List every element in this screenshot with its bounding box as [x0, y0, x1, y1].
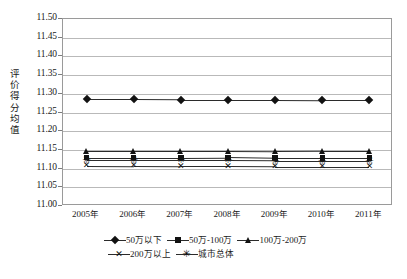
- line-chart: 评价得分均值 11.5011.4511.4011.3511.3011.2511.…: [0, 0, 407, 279]
- asterisk-marker-icon: ✳: [223, 155, 233, 165]
- legend-item[interactable]: ✳城市总体: [176, 247, 234, 261]
- y-axis-tick-label: 11.10: [1, 163, 57, 173]
- legend-marker: [237, 234, 259, 246]
- legend-label: 50万-100万: [189, 233, 232, 247]
- chart-legend: 50万以下50万-100万100万-200万✕200万以上✳城市总体: [104, 233, 370, 261]
- diamond-marker-icon: [111, 236, 119, 244]
- series-line-segment: [134, 160, 181, 161]
- asterisk-marker-icon: ✳: [82, 155, 92, 165]
- y-axis-tick-label: 11.50: [1, 13, 57, 23]
- legend-row: ✕200万以上✳城市总体: [104, 247, 370, 261]
- legend-label: 100万-200万: [259, 233, 307, 247]
- square-marker-icon: [175, 237, 180, 242]
- asterisk-marker-icon: ✳: [176, 155, 186, 165]
- series-line-segment: [322, 161, 369, 162]
- y-axis-tick-label: 11.40: [1, 50, 57, 60]
- asterisk-marker-icon: ✳: [317, 156, 327, 166]
- y-axis-tick-label: 11.30: [1, 88, 57, 98]
- plot-area: ✕✕✕✕✕✕✕✳✳✳✳✳✳✳: [62, 18, 392, 205]
- legend-item[interactable]: 50万-100万: [167, 233, 232, 247]
- asterisk-marker-icon: ✳: [129, 155, 139, 165]
- legend-item[interactable]: 50万以下: [104, 233, 162, 247]
- y-axis-tick-label: 11.25: [1, 107, 57, 117]
- legend-marker: ✳: [176, 248, 198, 260]
- legend-item[interactable]: 100万-200万: [237, 233, 307, 247]
- legend-marker: [167, 234, 189, 246]
- legend-marker: [104, 234, 126, 246]
- y-axis-tick-label: 11.15: [1, 144, 57, 154]
- y-axis-tick-label: 11.35: [1, 69, 57, 79]
- y-axis-tick-mark: [58, 205, 62, 206]
- series-line-segment: [275, 161, 322, 162]
- asterisk-marker-icon: ✳: [182, 249, 192, 259]
- asterisk-marker-icon: ✳: [364, 156, 374, 166]
- series-line-segment: [181, 160, 228, 161]
- legend-row: 50万以下50万-100万100万-200万: [104, 233, 370, 247]
- triangle-marker-icon: [245, 237, 251, 243]
- asterisk-marker-icon: ✳: [270, 156, 280, 166]
- legend-label: 城市总体: [198, 247, 234, 261]
- y-axis-tick-label: 11.45: [1, 32, 57, 42]
- y-axis-tick-label: 11.05: [1, 181, 57, 191]
- x-axis-tick-label: 2011年: [340, 209, 396, 219]
- legend-marker: ✕: [108, 248, 130, 260]
- x-marker-icon: ✕: [115, 250, 124, 259]
- y-axis-tick-label: 11.20: [1, 125, 57, 135]
- series-line-segment: [228, 160, 275, 161]
- y-axis-tick-label: 11.00: [1, 200, 57, 210]
- legend-label: 50万以下: [126, 233, 162, 247]
- series-5: ✳✳✳✳✳✳✳: [63, 19, 391, 204]
- legend-item[interactable]: ✕200万以上: [108, 247, 171, 261]
- series-line-segment: [87, 160, 134, 161]
- legend-label: 200万以上: [130, 247, 171, 261]
